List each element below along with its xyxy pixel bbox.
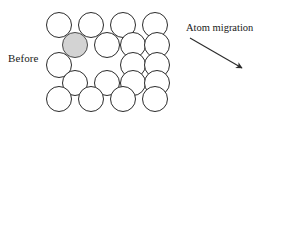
annotation-atom-migration: Atom migration — [184, 22, 281, 92]
annotation-atom-migration-label: Atom migration — [186, 22, 253, 34]
state-label-before: Before — [8, 52, 39, 64]
atom — [142, 86, 168, 112]
panel-after: After Vacancy migration — [0, 116, 281, 231]
lattice-before — [46, 12, 170, 112]
atom — [78, 86, 104, 112]
atom — [46, 86, 72, 112]
shaded-atom — [62, 32, 88, 58]
atom — [110, 86, 136, 112]
panel-before: Before Atom migration — [0, 0, 281, 116]
atom — [94, 32, 120, 58]
vacancy-diffusion-figure: Before Atom migration After — [0, 0, 281, 231]
